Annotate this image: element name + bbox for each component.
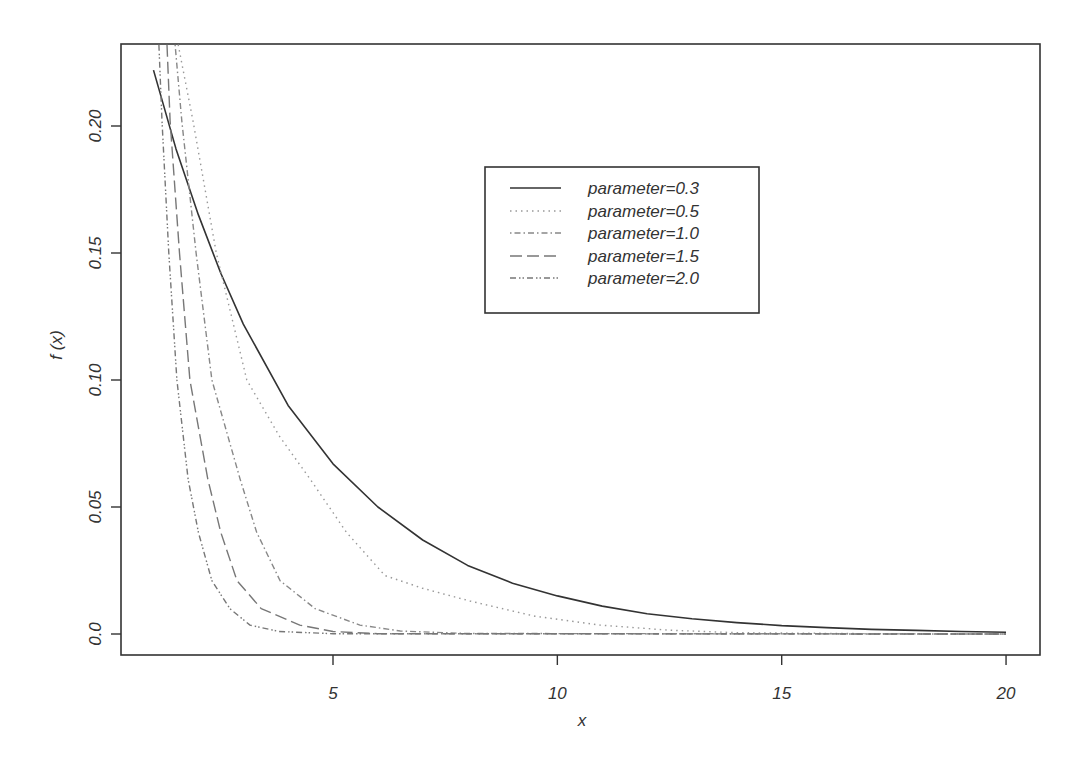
- series-line-4: [159, 45, 1006, 634]
- x-axis-title: x: [577, 711, 587, 730]
- y-tick-label: 0.05: [86, 490, 105, 524]
- x-tick-label: 5: [328, 684, 338, 703]
- legend: parameter=0.3 parameter=0.5 parameter=1.…: [485, 167, 759, 313]
- legend-label-3: parameter=1.5: [587, 247, 700, 266]
- legend-label-1: parameter=0.5: [587, 202, 700, 221]
- y-axis: 0.00.050.100.150.20: [86, 109, 121, 646]
- plot-frame: [121, 44, 1040, 655]
- legend-label-4: parameter=2.0: [587, 269, 700, 288]
- series-line-0: [154, 70, 1007, 632]
- x-tick-label: 20: [996, 684, 1016, 703]
- y-tick-label: 0.20: [86, 109, 105, 143]
- x-tick-label: 15: [772, 684, 791, 703]
- y-tick-label: 0.0: [86, 622, 105, 646]
- series-line-1: [178, 45, 1006, 634]
- y-tick-label: 0.15: [86, 236, 105, 270]
- series-layer: [154, 45, 1007, 634]
- y-tick-label: 0.10: [86, 363, 105, 397]
- legend-label-0: parameter=0.3: [587, 179, 700, 198]
- chart-canvas: 5101520 0.00.050.100.150.20 x f (x) para…: [0, 0, 1081, 764]
- legend-label-2: parameter=1.0: [587, 224, 700, 243]
- x-axis: 5101520: [328, 655, 1016, 703]
- series-line-3: [167, 45, 1006, 634]
- series-line-2: [175, 45, 1006, 634]
- y-axis-title: f (x): [47, 330, 66, 359]
- x-tick-label: 10: [548, 684, 567, 703]
